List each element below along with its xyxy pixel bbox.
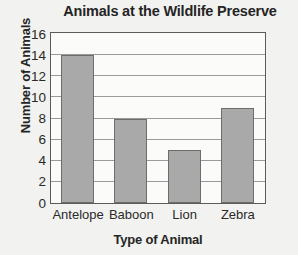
y-tick-label: 14 <box>6 47 46 62</box>
bar <box>61 55 94 203</box>
bar <box>168 150 201 203</box>
plot-area <box>50 32 266 204</box>
y-tick-label: 16 <box>6 26 46 41</box>
x-tick-label: Baboon <box>105 207 158 222</box>
y-tick-label: 2 <box>6 174 46 189</box>
y-tick-label: 6 <box>6 132 46 147</box>
y-tick-label: 8 <box>6 111 46 126</box>
bar <box>114 119 147 204</box>
y-tick-label: 12 <box>6 68 46 83</box>
y-tick-label: 4 <box>6 153 46 168</box>
x-tick-label: Antelope <box>52 207 105 222</box>
chart-title: Animals at the Wildlife Preserve <box>46 3 294 19</box>
x-tick-label: Zebra <box>211 207 264 222</box>
bars-group <box>51 33 265 203</box>
bar <box>221 108 254 203</box>
x-axis-title: Type of Animal <box>50 232 266 247</box>
y-tick-label: 10 <box>6 89 46 104</box>
bar-chart-figure: Animals at the Wildlife Preserve Number … <box>0 0 298 255</box>
y-tick-label: 0 <box>6 195 46 210</box>
x-tick-label: Lion <box>158 207 211 222</box>
